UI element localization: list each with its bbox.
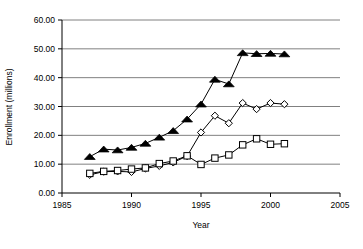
marker-open-square xyxy=(101,168,107,174)
x-tick-label: 1990 xyxy=(122,200,141,210)
marker-open-square xyxy=(240,142,246,148)
marker-open-square xyxy=(253,136,259,142)
chart-canvas: 0.0010.0020.0030.0040.0050.0060.00 19851… xyxy=(0,0,363,249)
marker-open-square xyxy=(281,140,287,146)
marker-open-square xyxy=(267,141,273,147)
y-axis-title: Enrollment (millions) xyxy=(4,68,14,145)
y-tick-label: 40.00 xyxy=(34,73,56,83)
y-tick-label: 60.00 xyxy=(34,15,56,25)
y-tick-label: 50.00 xyxy=(34,44,56,54)
x-tick-label: 2000 xyxy=(261,200,280,210)
y-tick-label: 0.00 xyxy=(38,188,55,198)
marker-open-square xyxy=(156,160,162,166)
x-tick-label: 1995 xyxy=(192,200,211,210)
marker-open-square xyxy=(128,166,134,172)
y-tick-label: 30.00 xyxy=(34,102,56,112)
chart-background xyxy=(0,0,363,249)
marker-open-square xyxy=(198,161,204,167)
marker-open-square xyxy=(87,170,93,176)
x-tick-label: 2005 xyxy=(331,200,350,210)
marker-open-square xyxy=(142,165,148,171)
x-tick-label: 1985 xyxy=(53,200,72,210)
x-axis-title: Year xyxy=(192,220,209,230)
enrollment-line-chart: 0.0010.0020.0030.0040.0050.0060.00 19851… xyxy=(0,0,363,249)
y-tick-label: 20.00 xyxy=(34,130,56,140)
y-tick-label: 10.00 xyxy=(34,159,56,169)
marker-open-square xyxy=(212,155,218,161)
marker-open-square xyxy=(184,153,190,159)
marker-open-square xyxy=(114,167,120,173)
marker-open-square xyxy=(226,152,232,158)
marker-open-square xyxy=(170,158,176,164)
